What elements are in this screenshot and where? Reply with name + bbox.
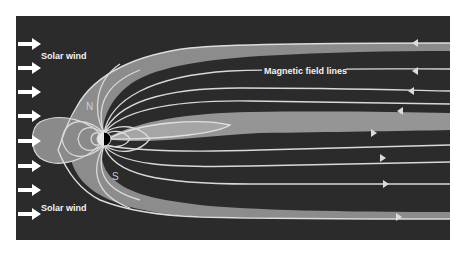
magnetic-field-lines-label: Magnetic field lines [264,66,347,76]
earth-icon [97,132,111,146]
solar-wind-label-top: Solar wind [41,51,87,61]
north-pole-label: N [86,101,93,112]
solar-wind-label-bottom: Solar wind [41,203,87,213]
magnetosphere-diagram: Magnetic field lines Solar wind Solar wi… [0,0,464,254]
south-pole-label: S [112,171,119,182]
